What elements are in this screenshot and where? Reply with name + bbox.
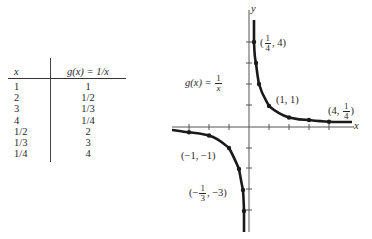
label-fraction: 14 [265,34,272,53]
label-rest: , 4) [272,37,286,48]
point-label-1-1: (1, 1) [276,94,299,105]
point-label-quarter-4: (14, 4) [260,34,286,53]
fraction-denominator: x [217,84,221,93]
point-label-4-quarter: (4, 14) [328,102,354,121]
label-rest: , −3) [207,187,227,198]
fraction-denominator: 3 [200,194,205,203]
label-fraction: 13 [199,184,206,203]
hyperbola-graph [0,0,372,239]
point-label-neg1-neg1: (−1, −1) [181,150,216,161]
fraction-denominator: 4 [344,112,349,121]
function-lhs: g(x) = [185,77,212,88]
label-open: (− [189,187,198,198]
fraction-denominator: 4 [266,44,271,53]
point-label-neg-third-neg3: (−13, −3) [189,184,227,203]
label-open: ( [260,37,264,48]
function-fraction: 1x [215,74,222,93]
x-axis-label: x [354,120,359,131]
curve-negative-branch [172,130,244,232]
y-axis-label: y [251,3,256,14]
label-fraction: 14 [343,102,350,121]
function-label: g(x) = 1x [185,74,223,93]
label-open: (4, [328,105,342,116]
label-rest: ) [351,105,355,116]
